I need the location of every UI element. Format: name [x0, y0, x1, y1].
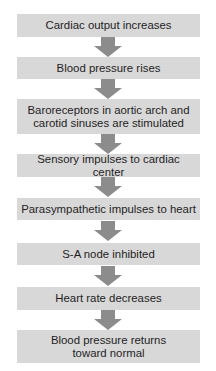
step-parasympathetic-impulses: Parasympathetic impulses to heart	[17, 198, 200, 220]
down-arrow-icon	[94, 266, 122, 286]
step-label: Baroreceptors in aortic arch and carotid…	[27, 104, 189, 130]
step-label: Blood pressure rises	[57, 62, 161, 75]
down-arrow-icon	[94, 310, 122, 330]
step-blood-pressure-rises: Blood pressure rises	[17, 57, 200, 79]
step-label: Sensory impulses to cardiac center	[21, 153, 196, 179]
step-cardiac-output-increases: Cardiac output increases	[17, 14, 200, 37]
down-arrow-icon	[94, 134, 122, 154]
down-arrow-icon	[94, 177, 122, 197]
step-heart-rate-decreases: Heart rate decreases	[17, 287, 200, 310]
step-baroreceptors-stimulated: Baroreceptors in aortic arch and carotid…	[17, 99, 200, 134]
step-label: Heart rate decreases	[55, 292, 161, 305]
step-blood-pressure-returns-normal: Blood pressure returns toward normal	[17, 330, 200, 363]
step-label: Blood pressure returns toward normal	[51, 334, 166, 360]
step-sa-node-inhibited: S-A node inhibited	[17, 243, 200, 265]
step-label: Cardiac output increases	[46, 19, 172, 32]
step-label: Parasympathetic impulses to heart	[21, 203, 196, 216]
step-sensory-impulses: Sensory impulses to cardiac center	[17, 154, 200, 177]
down-arrow-icon	[94, 37, 122, 57]
down-arrow-icon	[94, 221, 122, 241]
down-arrow-icon	[94, 79, 122, 99]
step-label: S-A node inhibited	[62, 248, 154, 261]
